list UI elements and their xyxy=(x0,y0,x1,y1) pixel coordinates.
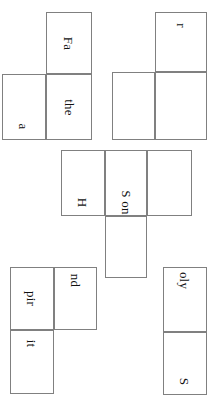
oly-s-piece[interactable]: olyS xyxy=(0,0,220,412)
puzzle-cell-label: S xyxy=(164,333,206,394)
puzzle-cell[interactable]: oly xyxy=(163,267,207,332)
puzzle-cell-label: oly xyxy=(164,268,206,331)
puzzle-canvas: FathearHS onndpiritolyS xyxy=(0,0,220,412)
puzzle-cell-text: S xyxy=(179,378,192,385)
puzzle-cell-text: oly xyxy=(179,272,192,289)
puzzle-cell[interactable]: S xyxy=(163,332,207,395)
